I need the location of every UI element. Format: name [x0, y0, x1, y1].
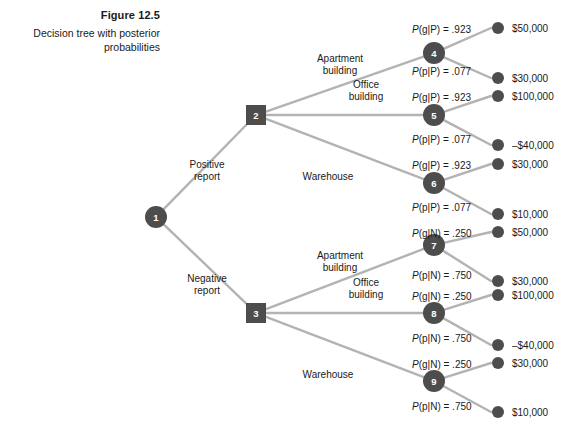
probability-label: P(p|N) = .750 — [412, 333, 472, 344]
payoff-value: $30,000 — [512, 159, 549, 170]
terminal-node-dot — [492, 275, 504, 287]
payoff-value: $10,000 — [512, 407, 549, 418]
probability-label: P(g|P) = .923 — [412, 160, 471, 171]
terminal-node-dot — [492, 22, 504, 34]
probability-label: P(p|P) = .077 — [412, 202, 471, 213]
terminal-node-dot — [492, 357, 504, 369]
probability-label: P(p|P) = .077 — [412, 66, 471, 77]
stage2-branch-label-3-8: Officebuilding — [349, 277, 383, 300]
terminal-node-dot — [492, 158, 504, 170]
tree-node-label-5: 5 — [431, 110, 437, 121]
tree-node-label-8: 8 — [431, 308, 436, 319]
branch-lines — [164, 28, 491, 412]
tree-node-label-1: 1 — [153, 212, 159, 223]
branch-labels: PositivereportNegativereportApartmentbui… — [187, 53, 383, 380]
stage1-branch-label-2: Positivereport — [189, 159, 224, 182]
terminal-node-dot — [492, 289, 504, 301]
stage2-branch-label-2-6: Warehouse — [303, 171, 354, 182]
probability-label: P(g|P) = .923 — [412, 24, 471, 35]
payoff-value: $10,000 — [512, 209, 549, 220]
payoff-value: $30,000 — [512, 73, 549, 84]
terminal-node-dot — [492, 226, 504, 238]
stage1-branch-label-3: Negativereport — [187, 273, 227, 296]
terminal-node-dot — [492, 90, 504, 102]
stage2-branch-label-2-4: Apartmentbuilding — [317, 53, 363, 76]
tree-nodes: 123456789 — [145, 42, 445, 392]
stage2-branch-label-3-7: Apartmentbuilding — [317, 250, 363, 273]
probability-label: P(g|N) = .250 — [412, 228, 472, 239]
tree-node-label-7: 7 — [431, 240, 436, 251]
stage2-branch-label-2-5: Officebuilding — [349, 79, 383, 102]
probability-label: P(p|P) = .077 — [412, 134, 471, 145]
payoff-value: –$40,000 — [512, 140, 554, 151]
terminal-node-dot — [492, 139, 504, 151]
tree-node-label-6: 6 — [431, 178, 436, 189]
tree-node-label-9: 9 — [431, 376, 436, 387]
tree-node-label-3: 3 — [253, 308, 258, 319]
probability-label: P(g|N) = .250 — [412, 359, 472, 370]
payoff-value: $30,000 — [512, 358, 549, 369]
tree-node-label-2: 2 — [253, 110, 258, 121]
probability-labels: P(g|P) = .923P(p|P) = .077P(g|P) = .923P… — [412, 24, 472, 412]
terminal-node-dot — [492, 208, 504, 220]
payoff-value: $100,000 — [512, 290, 554, 301]
tree-node-label-4: 4 — [431, 48, 437, 59]
payoff-value: $50,000 — [512, 23, 549, 34]
terminal-dots — [492, 22, 504, 418]
payoff-value: $100,000 — [512, 91, 554, 102]
terminal-node-dot — [492, 406, 504, 418]
terminal-node-dot — [492, 339, 504, 351]
probability-label: P(g|N) = .250 — [412, 291, 472, 302]
payoff-value: $50,000 — [512, 227, 549, 238]
terminal-node-dot — [492, 72, 504, 84]
decision-tree-diagram: 123456789 PositivereportNegativereportAp… — [0, 0, 587, 427]
probability-label: P(g|P) = .923 — [412, 92, 471, 103]
probability-label: P(p|N) = .750 — [412, 401, 472, 412]
probability-label: P(p|N) = .750 — [412, 270, 472, 281]
stage2-branch-label-3-9: Warehouse — [303, 369, 354, 380]
payoff-value: $30,000 — [512, 276, 549, 287]
payoff-value: –$40,000 — [512, 340, 554, 351]
payoff-labels: $50,000$30,000$100,000–$40,000$30,000$10… — [512, 23, 554, 418]
